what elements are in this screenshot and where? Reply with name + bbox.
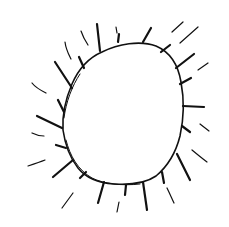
- sun-drawing: [0, 0, 229, 227]
- sun-body: [63, 43, 183, 184]
- sketch-canvas: [0, 0, 229, 227]
- inner-rays: [37, 24, 204, 210]
